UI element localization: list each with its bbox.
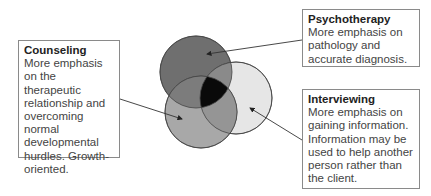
interviewing-title: Interviewing <box>308 93 414 106</box>
interviewing-text: More emphasis on gaining information. In… <box>308 106 414 185</box>
psychotherapy-text: More emphasis on pathology and accurate … <box>308 26 414 66</box>
counseling-text: More emphasis on the therapeutic relatio… <box>24 57 114 176</box>
interviewing-box: Interviewing More emphasis on gaining in… <box>302 89 420 189</box>
psychotherapy-title: Psychotherapy <box>308 13 414 26</box>
counseling-title: Counseling <box>24 44 114 57</box>
counseling-box: Counseling More emphasis on the therapeu… <box>18 40 120 158</box>
psychotherapy-box: Psychotherapy More emphasis on pathology… <box>302 9 420 67</box>
